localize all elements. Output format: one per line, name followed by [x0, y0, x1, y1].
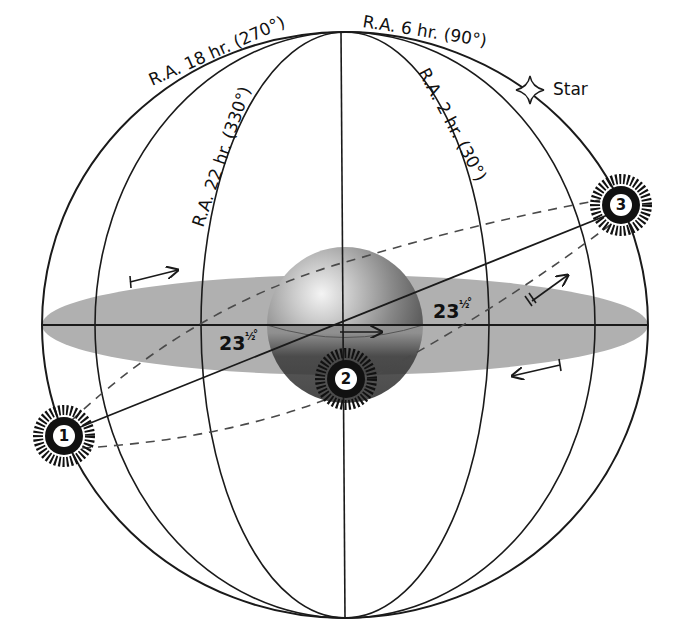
sun-position-1: 1 [38, 410, 90, 462]
celestial-sphere-diagram: R.A. 18 hr. (270°) R.A. 6 hr. (90°) R.A.… [0, 0, 683, 641]
svg-text:23: 23 [433, 300, 459, 322]
svg-text:2: 2 [341, 370, 351, 388]
label-ra-2: R.A. 2 hr. (30°) [414, 64, 491, 184]
svg-text:3: 3 [616, 196, 626, 214]
label-ra-22: R.A. 22 hr. (330°) [188, 84, 255, 230]
svg-text:°: ° [253, 328, 258, 339]
label-ra-6: R.A. 6 hr. (90°) [361, 11, 488, 50]
svg-text:1: 1 [59, 427, 69, 445]
svg-text:°: ° [467, 296, 472, 307]
svg-text:23: 23 [219, 332, 245, 354]
sun-position-3: 3 [595, 179, 647, 231]
star-label: Star [553, 79, 588, 99]
